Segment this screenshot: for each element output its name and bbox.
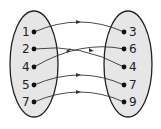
- domain-label: 5: [22, 78, 30, 92]
- arrowheads: [66, 20, 94, 94]
- range-label: 7: [129, 78, 137, 92]
- domain-label: 4: [22, 60, 30, 74]
- arrowhead-icon: [76, 73, 81, 77]
- range-label: 3: [129, 25, 137, 39]
- domain-label: 1: [22, 25, 30, 39]
- domain-label: 2: [22, 42, 30, 56]
- arrowhead-icon: [76, 90, 81, 94]
- domain-label: 7: [22, 95, 30, 109]
- range-label: 4: [129, 60, 137, 74]
- range-label: 9: [129, 95, 137, 109]
- arrowhead-icon: [89, 48, 94, 52]
- arrowhead-icon: [76, 20, 81, 24]
- mapping-diagram: 1 2 4 5 7 3 6 4 7 9: [0, 0, 161, 129]
- range-label: 6: [129, 42, 137, 56]
